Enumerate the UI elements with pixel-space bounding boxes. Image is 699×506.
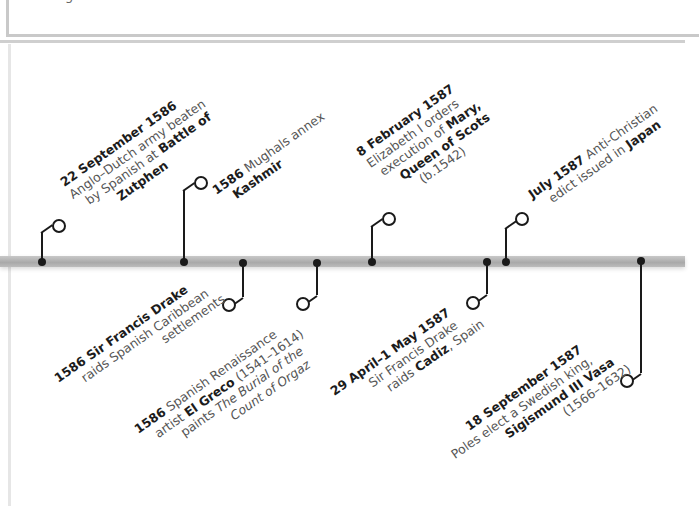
event-ring-icon (382, 212, 396, 226)
event-ring-icon (296, 297, 310, 311)
event-label-japan: July 1587 Anti-Christian edict issued in… (526, 102, 669, 214)
previous-section-text-fragment: g . (65, 0, 193, 3)
event-dot-icon (502, 258, 510, 266)
event-dot-icon (368, 258, 376, 266)
event-label-mary: 8 February 1587 Elizabeth I orders execu… (354, 74, 501, 207)
event-text: Sir Francis Drake (336, 305, 478, 411)
event-dot-icon (180, 258, 188, 266)
event-label-kashmir: 1586 Mughals annex Kashmir (210, 110, 336, 210)
previous-section-box: g . (6, 0, 699, 37)
event-dot-icon (38, 258, 46, 266)
left-margin-rule (8, 44, 11, 506)
event-label-sigismund: 18 September 1587 Poles elect a Swedish … (440, 326, 634, 486)
event-label-zutphen: 22 September 1586 Anglo–Dutch army beate… (58, 85, 225, 226)
timeline-axis (0, 256, 685, 267)
event-ring-icon (515, 212, 529, 226)
event-ring-icon (194, 176, 208, 190)
section-divider (0, 40, 685, 43)
event-ring-icon (52, 219, 66, 233)
event-label-cadiz: 29 April–1 May 1587 Sir Francis Drake ra… (328, 293, 487, 423)
